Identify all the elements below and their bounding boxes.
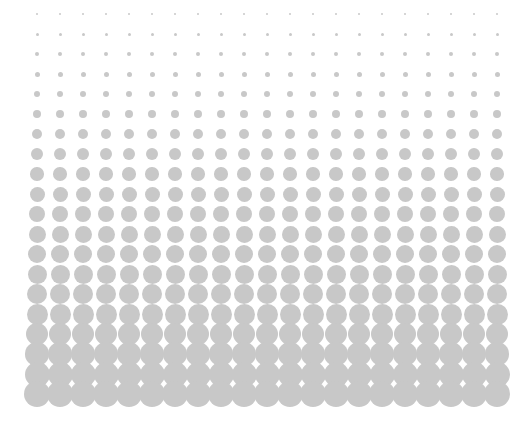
halftone-dot	[98, 206, 114, 222]
halftone-dot	[58, 52, 62, 56]
halftone-dot	[151, 33, 154, 36]
halftone-dot	[73, 284, 93, 304]
halftone-dot	[190, 226, 207, 243]
halftone-dot	[379, 91, 386, 98]
halftone-dot	[331, 129, 341, 139]
halftone-dot	[78, 129, 88, 139]
halftone-dot	[196, 52, 200, 56]
halftone-dot	[234, 284, 254, 304]
halftone-dot	[311, 72, 316, 77]
halftone-dot	[147, 129, 157, 139]
halftone-dot	[473, 13, 475, 15]
halftone-dot	[166, 245, 184, 263]
halftone-dot	[189, 265, 208, 284]
halftone-dot	[77, 148, 89, 160]
halftone-dot	[213, 206, 229, 222]
halftone-dot	[100, 148, 112, 160]
halftone-dot	[303, 304, 324, 325]
halftone-dot	[150, 52, 154, 56]
halftone-dot	[257, 304, 278, 325]
halftone-dot	[469, 129, 479, 139]
halftone-dot	[495, 72, 500, 77]
halftone-dot	[281, 265, 300, 284]
halftone-dot	[74, 245, 92, 263]
halftone-dot	[56, 110, 64, 118]
halftone-dot	[396, 245, 414, 263]
halftone-dot	[487, 304, 508, 325]
halftone-dot	[28, 265, 47, 284]
halftone-dot	[144, 206, 160, 222]
halftone-dot	[80, 91, 87, 98]
halftone-dot	[120, 245, 138, 263]
halftone-dot	[427, 33, 430, 36]
halftone-dot	[450, 33, 453, 36]
halftone-dot	[465, 245, 483, 263]
halftone-dot	[188, 284, 208, 304]
halftone-dot	[191, 187, 206, 202]
halftone-dot	[441, 304, 462, 325]
halftone-dot	[491, 148, 503, 160]
halftone-dot	[142, 284, 162, 304]
halftone-dot	[242, 52, 246, 56]
halftone-dot	[219, 52, 223, 56]
halftone-dot	[282, 206, 298, 222]
halftone-dot	[493, 110, 501, 118]
halftone-dot	[283, 187, 298, 202]
halftone-dot	[260, 167, 274, 181]
halftone-dot	[374, 206, 390, 222]
halftone-dot	[404, 13, 406, 15]
halftone-dot	[174, 13, 176, 15]
halftone-dot	[492, 129, 502, 139]
halftone-dot	[334, 72, 339, 77]
halftone-dot	[427, 13, 429, 15]
halftone-dot	[53, 167, 67, 181]
halftone-dot	[328, 206, 344, 222]
halftone-dot	[375, 167, 389, 181]
halftone-dot	[289, 33, 292, 36]
halftone-dot	[285, 129, 295, 139]
halftone-dot	[375, 187, 390, 202]
halftone-dot	[192, 148, 204, 160]
halftone-dot	[402, 91, 409, 98]
halftone-dot	[424, 110, 432, 118]
halftone-dot	[449, 72, 454, 77]
halftone-dot	[308, 129, 318, 139]
halftone-dot	[404, 33, 407, 36]
halftone-dot	[465, 265, 484, 284]
halftone-dot	[376, 148, 388, 160]
halftone-dot	[143, 245, 161, 263]
halftone-dot	[81, 52, 85, 56]
halftone-dot	[99, 187, 114, 202]
halftone-dot	[352, 187, 367, 202]
halftone-dot	[328, 226, 345, 243]
halftone-dot	[124, 129, 134, 139]
halftone-dot	[357, 52, 361, 56]
halftone-dot	[490, 187, 505, 202]
halftone-dot	[58, 72, 63, 77]
halftone-dot	[219, 72, 224, 77]
halftone-dot	[489, 226, 506, 243]
halftone-dot	[165, 304, 186, 325]
halftone-dot	[214, 187, 229, 202]
halftone-dot	[96, 304, 117, 325]
halftone-dot	[494, 91, 501, 98]
halftone-dot	[76, 187, 91, 202]
halftone-dot	[403, 72, 408, 77]
halftone-dot	[123, 148, 135, 160]
halftone-dot	[30, 167, 44, 181]
halftone-dot	[496, 33, 499, 36]
halftone-dot	[264, 91, 271, 98]
halftone-dot	[489, 206, 505, 222]
halftone-dot	[420, 206, 436, 222]
halftone-dot	[418, 284, 438, 304]
halftone-dot	[145, 167, 159, 181]
halftone-dot	[288, 72, 293, 77]
halftone-dot	[237, 167, 251, 181]
halftone-dot	[466, 206, 482, 222]
halftone-dot	[167, 206, 183, 222]
halftone-dot	[121, 226, 138, 243]
halftone-dot	[126, 91, 133, 98]
halftone-dot	[258, 245, 276, 263]
halftone-dot	[173, 52, 177, 56]
halftone-dot	[373, 265, 392, 284]
